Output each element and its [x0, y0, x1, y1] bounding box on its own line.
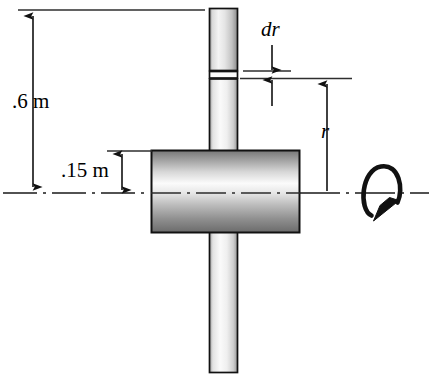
label-hub-radius: .15 m	[61, 160, 109, 181]
bar-segment-upper	[210, 9, 238, 71]
engineering-diagram: .6 m .15 m dr r	[0, 0, 430, 384]
hub-body	[152, 151, 300, 233]
rotation-arrowhead	[374, 198, 400, 222]
cylindrical-hub	[152, 151, 300, 233]
label-differential-element: dr	[261, 19, 280, 40]
dimension-015m	[107, 151, 152, 190]
dimension-dr	[240, 45, 352, 106]
bar-dr-strip	[210, 72, 238, 79]
label-bar-half-length: .6 m	[12, 91, 49, 112]
diagram-canvas	[0, 0, 430, 384]
label-radius-variable: r	[321, 121, 329, 142]
